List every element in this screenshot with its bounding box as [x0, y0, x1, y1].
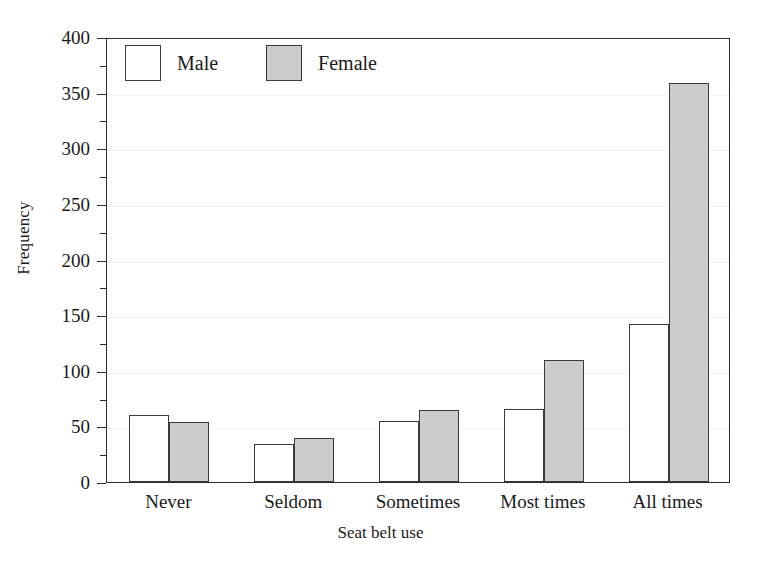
y-axis-minor-tick: [100, 344, 106, 345]
y-axis-minor-tick: [100, 400, 106, 401]
gridline: [107, 206, 729, 207]
bar-male-most-times: [504, 409, 544, 482]
y-axis-tick-label: 150: [30, 306, 90, 325]
legend-label-male: Male: [177, 53, 218, 73]
y-axis-major-tick: [97, 427, 106, 428]
y-axis-tick-label: 400: [30, 28, 90, 47]
y-axis-tick-label: 300: [30, 139, 90, 158]
y-axis-major-tick: [97, 261, 106, 262]
y-axis-minor-tick: [100, 177, 106, 178]
y-axis-major-tick: [97, 205, 106, 206]
bar-male-seldom: [254, 444, 294, 482]
x-axis-tick-label: Most times: [500, 492, 585, 511]
y-axis-major-tick: [97, 38, 106, 39]
gridline: [107, 317, 729, 318]
y-axis-minor-tick: [100, 121, 106, 122]
legend-swatch-female: [266, 45, 302, 81]
y-axis-minor-tick: [100, 288, 106, 289]
bar-male-never: [129, 415, 169, 482]
bar-chart-figure: Frequency MaleFemale 0501001502002503003…: [0, 0, 761, 571]
gridline: [107, 262, 729, 263]
x-axis-tick-label: Seldom: [264, 492, 322, 511]
y-axis-tick-label: 50: [30, 417, 90, 436]
y-axis-minor-tick: [100, 66, 106, 67]
y-axis-major-tick: [97, 372, 106, 373]
bar-female-never: [169, 422, 209, 482]
bar-female-sometimes: [419, 410, 459, 482]
x-axis-tick-label: Sometimes: [376, 492, 460, 511]
legend-entry-female: Female: [266, 45, 377, 81]
bar-male-sometimes: [379, 421, 419, 482]
bar-male-all-times: [629, 324, 669, 482]
chart-legend: MaleFemale: [125, 45, 377, 81]
y-axis-major-tick: [97, 316, 106, 317]
x-axis-tick-label: Never: [145, 492, 191, 511]
bar-female-most-times: [544, 360, 584, 482]
y-axis-tick-label: 0: [30, 473, 90, 492]
y-axis-tick-label: 200: [30, 251, 90, 270]
gridline: [107, 95, 729, 96]
x-axis-tick-label: All times: [632, 492, 702, 511]
bar-female-seldom: [294, 438, 334, 483]
y-axis-major-tick: [97, 94, 106, 95]
plot-area: MaleFemale: [106, 38, 730, 483]
y-axis-tick-label: 350: [30, 84, 90, 103]
y-axis-minor-tick: [100, 455, 106, 456]
legend-label-female: Female: [318, 53, 377, 73]
x-axis-title: Seat belt use: [0, 524, 761, 541]
bar-female-all-times: [669, 83, 709, 482]
legend-entry-male: Male: [125, 45, 218, 81]
y-axis-minor-tick: [100, 233, 106, 234]
y-axis-tick-label: 250: [30, 195, 90, 214]
gridline: [107, 150, 729, 151]
y-axis-tick-label: 100: [30, 362, 90, 381]
y-axis-major-tick: [97, 483, 106, 484]
legend-swatch-male: [125, 45, 161, 81]
y-axis-major-tick: [97, 149, 106, 150]
